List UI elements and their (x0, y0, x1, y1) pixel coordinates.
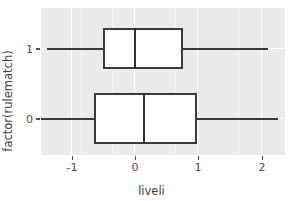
axis-title-y-text: factor(rulematch) (1, 50, 15, 151)
median-group-1 (134, 28, 136, 69)
tick-mark-x-2 (262, 156, 264, 160)
axis-title-x: liveli (0, 184, 303, 198)
whisker-low-group-0 (41, 118, 95, 120)
gridline-minor-x-1p5 (238, 8, 239, 155)
box-group-1 (103, 28, 183, 69)
tick-label-x-neg1: -1 (67, 161, 78, 174)
tick-label-y-1: 1 (18, 43, 33, 56)
tick-mark-x-1 (198, 156, 200, 160)
tick-mark-y-0 (36, 118, 40, 120)
gridline-major-x-2 (261, 8, 262, 155)
whisker-high-group-1 (182, 48, 268, 50)
tick-label-y-0: 0 (18, 113, 33, 126)
whisker-low-group-1 (47, 48, 104, 50)
gridline-major-x-1 (197, 8, 198, 155)
tick-mark-y-1 (36, 48, 40, 50)
box-group-0 (94, 93, 197, 144)
tick-label-x-1: 1 (195, 161, 202, 174)
tick-mark-x-0 (135, 156, 137, 160)
gridline-major-x-neg1 (71, 8, 72, 155)
median-group-0 (143, 93, 145, 144)
whisker-high-group-0 (196, 118, 278, 120)
gridline-minor-x-neg1p5 (81, 8, 82, 155)
plot-panel (41, 8, 285, 155)
axis-title-y: factor(rulematch) (0, 0, 16, 201)
tick-label-x-0: 0 (132, 161, 139, 174)
tick-mark-x-neg1 (72, 156, 74, 160)
boxplot-figure: -1 0 1 2 1 0 liveli factor(rulematch) (0, 0, 303, 201)
tick-label-x-2: 2 (259, 161, 266, 174)
